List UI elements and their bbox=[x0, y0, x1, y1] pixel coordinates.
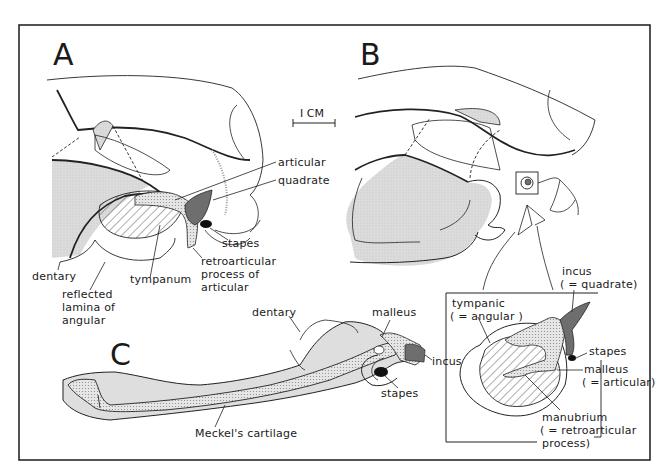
label-a-reflected-1: reflected bbox=[62, 288, 113, 301]
label-b-incus-2: ( = quadrate) bbox=[560, 278, 637, 291]
label-c-incus: incus bbox=[432, 355, 462, 368]
label-c-stapes: stapes bbox=[381, 387, 418, 400]
panel-b-drawing bbox=[346, 66, 595, 290]
diagram-drawing bbox=[0, 0, 662, 474]
label-a-reflected-3: angular bbox=[62, 314, 105, 327]
label-a-stapes: stapes bbox=[222, 237, 259, 250]
label-a-tympanum: tympanum bbox=[130, 273, 192, 286]
panel-b-letter: B bbox=[360, 40, 381, 70]
label-b-stapes: stapes bbox=[589, 345, 626, 358]
label-b-manubrium-3: process) bbox=[542, 437, 590, 450]
label-a-retroarticular-2: process of bbox=[201, 268, 259, 281]
label-a-retroarticular-3: articular bbox=[201, 281, 249, 294]
label-a-reflected-2: lamina of bbox=[62, 301, 115, 314]
panel-c-letter: C bbox=[110, 340, 131, 370]
label-a-retroarticular-1: retroarticular bbox=[201, 255, 276, 268]
label-b-malleus-1: malleus bbox=[584, 363, 628, 376]
label-a-dentary: dentary bbox=[32, 270, 76, 283]
label-b-tympanic-1: tympanic bbox=[452, 297, 505, 310]
label-b-incus-1: incus bbox=[562, 265, 592, 278]
label-b-malleus-2: ( = articular) bbox=[582, 376, 656, 389]
scale-bar-label: I CM bbox=[300, 107, 324, 120]
label-c-dentary: dentary bbox=[252, 306, 296, 319]
label-a-quadrate: quadrate bbox=[278, 174, 330, 187]
label-b-manubrium-2: ( = retroarticular bbox=[540, 424, 636, 437]
diagram-figure: A B C I CM articular quadrate stapes ret… bbox=[0, 0, 662, 474]
label-a-articular: articular bbox=[278, 156, 326, 169]
label-c-malleus: malleus bbox=[372, 306, 416, 319]
label-b-manubrium-1: manubrium bbox=[542, 411, 607, 424]
label-b-tympanic-2: ( = angular ) bbox=[450, 310, 523, 323]
panel-a-letter: A bbox=[53, 40, 74, 70]
label-c-meckels-cartilage: Meckel's cartilage bbox=[195, 427, 297, 440]
scale-bar bbox=[293, 119, 335, 127]
